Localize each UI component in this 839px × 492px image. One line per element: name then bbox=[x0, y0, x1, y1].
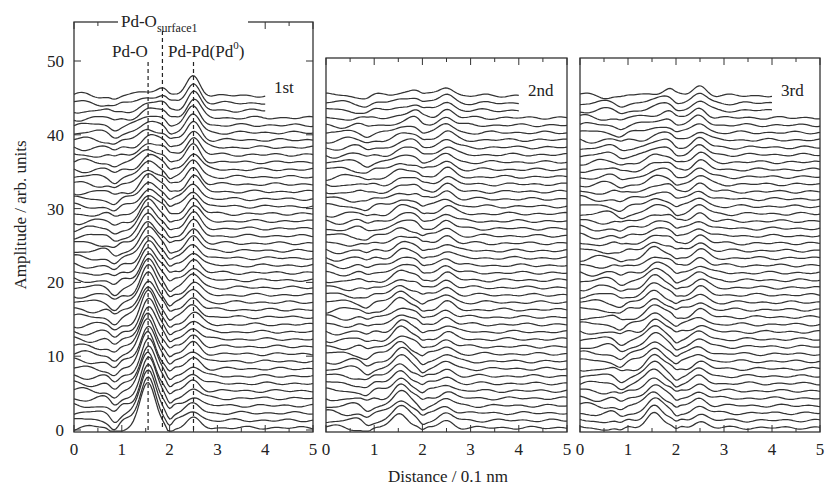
spectrum-line bbox=[326, 183, 567, 193]
x-tick-label: 4 bbox=[768, 440, 777, 459]
spectrum-line bbox=[74, 76, 265, 99]
spectrum-line bbox=[326, 401, 567, 417]
spectrum-line bbox=[326, 228, 567, 241]
x-tick-label: 0 bbox=[70, 440, 79, 459]
spectra-curves bbox=[326, 88, 567, 431]
exafs-figure: Amplitude / arb. units Distance / 0.1 nm… bbox=[0, 0, 839, 492]
spectrum-line bbox=[580, 108, 820, 120]
annotation-pd-pd: Pd-Pd(Pd0) bbox=[168, 36, 260, 61]
y-tick-label: 40 bbox=[47, 126, 64, 145]
spectrum-line bbox=[326, 320, 567, 335]
spectrum-line bbox=[580, 319, 820, 334]
panel-3rd: 012345 bbox=[576, 58, 825, 459]
x-tick-label: 1 bbox=[624, 440, 633, 459]
svg-text:Pd-O: Pd-O bbox=[112, 42, 148, 61]
x-tick-label: 4 bbox=[261, 440, 270, 459]
plot-frame bbox=[580, 58, 820, 432]
spectrum-line bbox=[580, 398, 820, 417]
spectrum-line bbox=[326, 131, 567, 143]
spectrum-line bbox=[326, 109, 567, 120]
spectrum-line bbox=[580, 290, 820, 307]
spectrum-line bbox=[326, 342, 567, 360]
panel-2nd: 012345 bbox=[322, 58, 572, 459]
y-tick-labels: 01020304050 bbox=[47, 52, 64, 440]
spectrum-line bbox=[326, 390, 567, 411]
x-tick-label: 0 bbox=[322, 440, 331, 459]
spectrum-line bbox=[326, 347, 567, 366]
spectrum-line bbox=[74, 182, 313, 204]
spectrum-line bbox=[580, 86, 772, 99]
spectrum-line bbox=[580, 342, 820, 360]
spectrum-line bbox=[326, 88, 519, 99]
annotation-pd-o-surface: Pd-Osurface1 bbox=[118, 10, 248, 35]
x-tick-label: 2 bbox=[418, 440, 427, 459]
y-tick-label: 30 bbox=[47, 200, 64, 219]
spectrum-line bbox=[580, 152, 820, 165]
spectrum-line bbox=[580, 191, 820, 201]
spectrum-line bbox=[326, 280, 567, 291]
spectrum-line bbox=[326, 191, 567, 202]
x-tick-label: 2 bbox=[165, 440, 174, 459]
panel-label-2nd: 2nd bbox=[528, 81, 554, 100]
spectrum-line bbox=[580, 160, 820, 173]
x-tick-label: 2 bbox=[672, 440, 681, 459]
spectrum-line bbox=[326, 94, 519, 107]
spectrum-line bbox=[580, 299, 820, 313]
spectrum-line bbox=[580, 93, 772, 107]
y-tick-label: 0 bbox=[56, 421, 65, 440]
spectrum-line bbox=[580, 275, 820, 292]
x-tick-label: 5 bbox=[816, 440, 825, 459]
spectrum-line bbox=[580, 242, 820, 253]
y-tick-label: 10 bbox=[47, 347, 64, 366]
spectrum-line bbox=[580, 313, 820, 330]
spectrum-line bbox=[580, 268, 820, 285]
y-tick-label: 20 bbox=[47, 273, 64, 292]
annotation-pd-o: Pd-O bbox=[112, 40, 150, 61]
x-tick-label: 5 bbox=[309, 440, 318, 459]
y-tick-label: 50 bbox=[47, 52, 64, 71]
spectrum-line bbox=[580, 183, 820, 194]
x-tick-label: 5 bbox=[563, 440, 572, 459]
spectrum-line bbox=[580, 361, 820, 382]
x-tick-label: 1 bbox=[370, 440, 379, 459]
x-tick-label: 1 bbox=[118, 440, 127, 459]
spectrum-line bbox=[580, 283, 820, 299]
spectrum-line bbox=[326, 355, 567, 375]
x-tick-label: 3 bbox=[213, 440, 222, 459]
y-axis-label: Amplitude / arb. units bbox=[11, 140, 30, 289]
spectra-curves bbox=[580, 86, 820, 430]
x-tick-label: 0 bbox=[576, 440, 585, 459]
svg-text:Pd-Pd(Pd0): Pd-Pd(Pd0) bbox=[168, 39, 244, 61]
spectrum-line bbox=[580, 168, 820, 180]
panel-label-1st: 1st bbox=[274, 78, 294, 97]
spectrum-line bbox=[326, 116, 567, 128]
spectrum-line bbox=[580, 175, 820, 188]
panel-label-3rd: 3rd bbox=[781, 81, 804, 100]
x-tick-label: 3 bbox=[720, 440, 729, 459]
spectrum-line bbox=[74, 91, 265, 113]
x-axis-label: Distance / 0.1 nm bbox=[388, 467, 508, 486]
x-tick-label: 3 bbox=[466, 440, 475, 459]
spectrum-line bbox=[580, 247, 820, 262]
x-tick-label: 4 bbox=[515, 440, 524, 459]
